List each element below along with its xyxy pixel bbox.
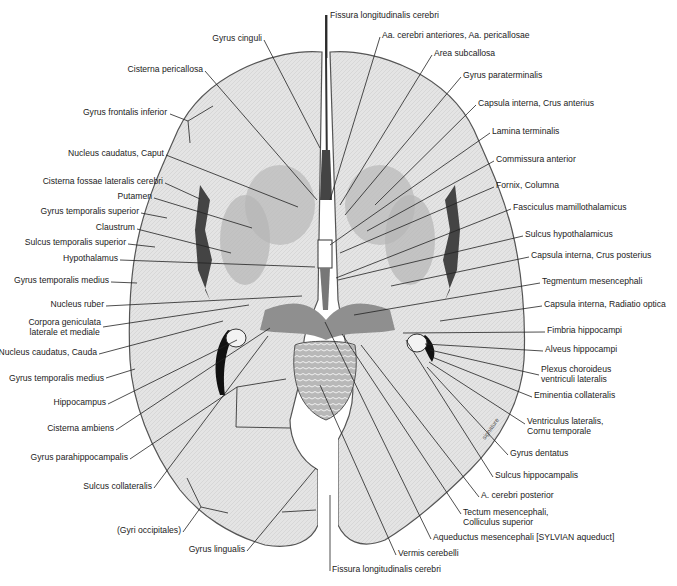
- label-sulcus-collateralis: Sulcus collateralis: [83, 481, 152, 491]
- label-gyri-occipitales: (Gyri occipitales): [117, 525, 181, 535]
- label-vermis-cerebelli: Vermis cerebelli: [398, 548, 459, 558]
- label-fimbria-hippocampi: Fimbria hippocampi: [547, 325, 622, 335]
- label-nucleus-ruber: Nucleus ruber: [51, 299, 105, 309]
- left-hemisphere: [129, 52, 322, 547]
- label-nucleus-caudatus-cauda: Nucleus caudatus, Cauda: [0, 347, 97, 357]
- label-gyrus-temporalis-medius-1: Gyrus temporalis medius: [14, 275, 109, 285]
- label-hypothalamus: Hypothalamus: [63, 253, 118, 263]
- label-fissura-longitudinalis-top: Fissura longitudinalis cerebri: [330, 10, 439, 20]
- label-area-subcallosa: Area subcallosa: [434, 48, 495, 58]
- label-eminentia-collateralis: Eminentia collateralis: [534, 390, 615, 400]
- label-alveus-hippocampi: Alveus hippocampi: [545, 344, 617, 354]
- label-lamina-terminalis: Lamina terminalis: [492, 126, 559, 136]
- label-capsula-interna-crus-posterius: Capsula interna, Crus posterius: [531, 250, 651, 260]
- label-tegmentum-mesencephali: Tegmentum mesencephali: [542, 276, 642, 286]
- label-gyrus-lingualis: Gyrus lingualis: [189, 544, 245, 554]
- label-putamen: Putamen: [118, 191, 152, 201]
- label-corpora-geniculata: Corpora geniculata laterale et mediale: [28, 317, 101, 337]
- label-cisterna-fossae-lateralis: Cisterna fossae lateralis cerebri: [43, 176, 163, 186]
- label-gyrus-paraterminalis: Gyrus paraterminalis: [463, 70, 542, 80]
- label-sulcus-hippocampalis: Sulcus hippocampalis: [495, 470, 578, 480]
- label-ventriculus-lateralis: Ventriculus lateralis, Cornu temporale: [527, 416, 603, 436]
- label-gyrus-temporalis-medius-2: Gyrus temporalis medius: [9, 373, 104, 383]
- label-capsula-interna-crus-anterius: Capsula interna, Crus anterius: [478, 98, 594, 108]
- brain-section-illustration: signature: [0, 0, 677, 586]
- label-claustrum: Claustrum: [96, 222, 135, 232]
- label-gyrus-temporalis-superior: Gyrus temporalis superior: [41, 206, 139, 216]
- label-tectum-mesencephali: Tectum mesencephali, Colliculus superior: [463, 507, 549, 527]
- label-aqueductus-mesencephali: Aqueductus mesencephali [SYLVIAN aqueduc…: [433, 532, 614, 542]
- label-gyrus-parahippocampalis: Gyrus parahippocampalis: [31, 452, 128, 462]
- label-hippocampus: Hippocampus: [53, 397, 106, 407]
- label-aa-cerebri-anteriores: Aa. cerebri anteriores, Aa. pericallosae: [382, 30, 530, 40]
- label-sulcus-hypothalamicus: Sulcus hypothalamicus: [525, 229, 613, 239]
- label-commissura-anterior: Commissura anterior: [496, 154, 576, 164]
- label-nucleus-caudatus-caput: Nucleus caudatus, Caput: [68, 148, 164, 158]
- brain-horizontal-section-figure: signature: [0, 0, 677, 586]
- label-cisterna-ambiens: Cisterna ambiens: [47, 423, 114, 433]
- label-capsula-interna-radiatio-optica: Capsula interna, Radiatio optica: [544, 299, 666, 309]
- label-gyrus-cinguli: Gyrus cinguli: [212, 33, 262, 43]
- label-gyrus-dentatus: Gyrus dentatus: [510, 448, 568, 458]
- label-fasciculus-mamillothalamicus: Fasciculus mamillothalamicus: [513, 202, 627, 212]
- label-plexus-choroideus: Plexus choroideus ventriculi lateralis: [541, 364, 611, 384]
- label-fornix-columna: Fornix, Columna: [496, 180, 559, 190]
- label-fissura-longitudinalis-bottom: Fissura longitudinalis cerebri: [332, 564, 441, 574]
- label-a-cerebri-posterior: A. cerebri posterior: [481, 490, 554, 500]
- label-sulcus-temporalis-superior: Sulcus temporalis superior: [25, 237, 126, 247]
- label-gyrus-frontalis-inferior: Gyrus frontalis inferior: [83, 107, 167, 117]
- label-cisterna-pericallosa: Cisterna pericallosa: [128, 64, 203, 74]
